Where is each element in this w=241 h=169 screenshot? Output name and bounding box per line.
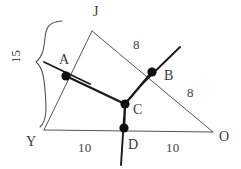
measure-label-BO: 8: [187, 86, 194, 99]
point-label-A: A: [59, 53, 69, 67]
measure-label-JB: 8: [133, 38, 140, 51]
segment-Y-O: [44, 130, 213, 132]
point-label-Y: Y: [26, 135, 36, 149]
point-A-marker: [61, 71, 70, 80]
point-label-O: O: [219, 130, 229, 144]
point-label-B: B: [164, 69, 174, 83]
left-brace-icon: [36, 21, 62, 127]
geometry-diagram: J Y O A B C D 8 8 10 10 15: [0, 0, 241, 169]
measure-label-DO: 10: [166, 141, 179, 154]
segment-J-O: [92, 31, 213, 132]
measure-label-YD: 10: [78, 141, 91, 154]
point-label-C: C: [133, 103, 143, 117]
measure-label-JA: 15: [9, 50, 22, 63]
point-label-D: D: [128, 138, 138, 152]
point-C-marker: [120, 99, 129, 108]
point-B-marker: [147, 67, 156, 76]
point-D-marker: [119, 123, 128, 132]
point-label-J: J: [93, 5, 99, 19]
path-A-C-B: [66, 72, 152, 104]
